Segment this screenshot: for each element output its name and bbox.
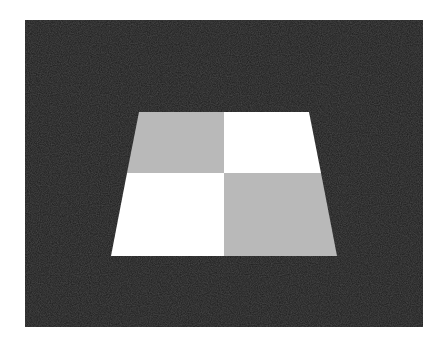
perspective-checkerboard (0, 0, 441, 345)
tile-bottom-right (224, 173, 337, 256)
figure-canvas (0, 0, 441, 345)
tile-bottom-left (111, 173, 224, 256)
tile-top-right (224, 112, 321, 173)
tile-top-left (127, 112, 224, 173)
